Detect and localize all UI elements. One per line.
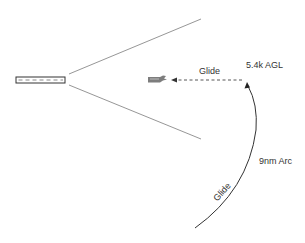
glide-path-label: Glide (199, 67, 220, 76)
diagram-canvas (0, 0, 305, 243)
glide-path-arrowhead-icon (171, 78, 177, 83)
arc-distance-label: 9nm Arc (259, 157, 292, 166)
arc-path (195, 86, 256, 228)
cone-upper-line (69, 19, 201, 74)
arc-arrowhead-icon (245, 82, 251, 89)
airplane-icon (148, 76, 167, 83)
cone-lower-line (69, 85, 201, 139)
runway (16, 77, 65, 83)
altitude-label: 5.4k AGL (246, 61, 283, 70)
